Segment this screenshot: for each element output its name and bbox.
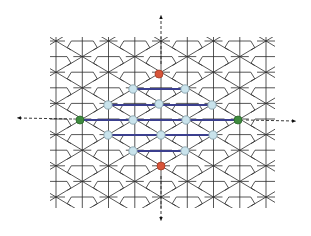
diagram-canvas [0,0,311,236]
blue-node [104,101,112,109]
blue-node [157,131,165,139]
blue-node [208,101,216,109]
red-node [155,70,163,78]
blue-node [181,147,189,155]
red-node [157,162,165,170]
tiling-edges [0,0,311,236]
blue-node [155,100,163,108]
tiling-diagram [0,0,311,236]
axis-right-arrow [246,120,294,121]
green-node [76,116,84,124]
blue-node [182,116,190,124]
blue-node [104,131,112,139]
blue-node [209,131,217,139]
blue-node [129,147,137,155]
pentagonal-tiling [0,0,311,236]
blue-node [181,85,189,93]
blue-node [129,116,137,124]
axis-left-arrow [19,118,72,119]
bond-lines [80,89,238,151]
green-node [234,116,242,124]
blue-node [129,85,137,93]
